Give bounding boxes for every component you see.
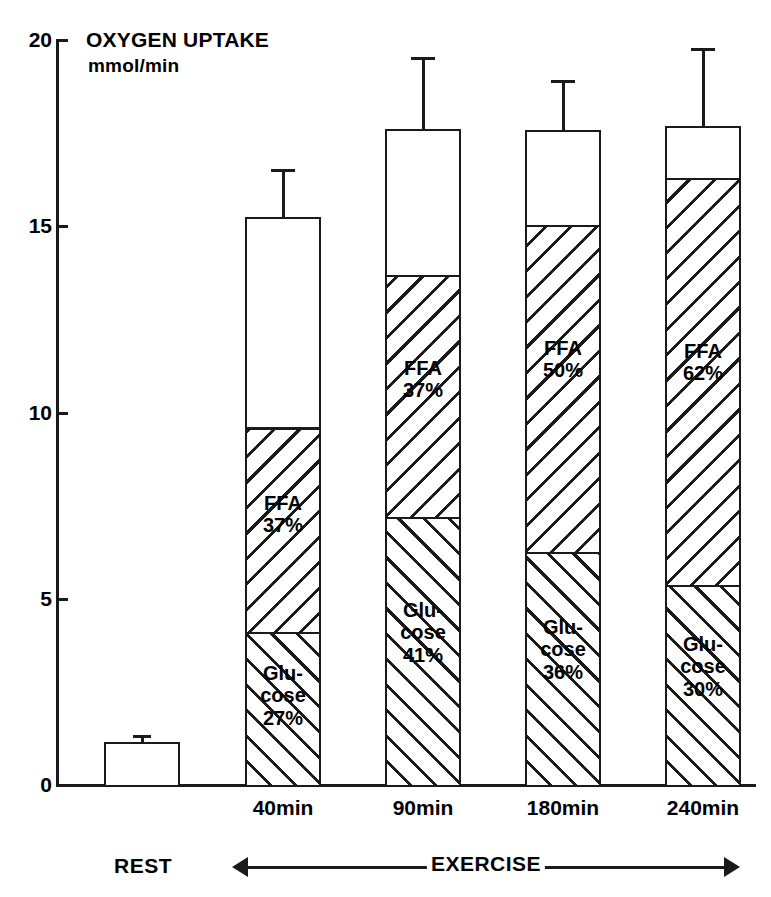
bar-40min-segment-ffa: FFA 37% [245,428,321,639]
bar-rest-error-cap [133,735,151,738]
bar-240min-segment-ffa: FFA 62% [665,178,741,588]
phase-label-exercise: EXERCISE [427,852,545,876]
arrow-left-icon [232,857,248,877]
x-label-40min: 40min [218,796,348,820]
bar-240min-ffa-name: FFA [667,340,739,362]
bar-90min-ffa-percent: 37% [387,379,459,401]
y-tick-5 [56,598,68,601]
y-tick-label-0: 0 [6,773,52,797]
bar-40min-glucose-name-line1: Glu- [247,662,319,684]
bar-40min-segment-other [245,217,321,429]
chart-canvas: OXYGEN UPTAKE mmol/min 20 15 10 5 0 FFA … [0,0,771,897]
x-label-90min: 90min [358,796,488,820]
bar-90min-glucose-name-line1: Glu- [387,599,459,621]
bar-90min-error-cap [411,57,435,60]
bar-180min-ffa-percent: 50% [527,359,599,381]
phase-label-rest: REST [78,854,208,878]
y-tick-label-5: 5 [6,587,52,611]
x-label-240min: 240min [638,796,768,820]
y-tick-0 [56,784,68,787]
bar-240min-glucose-percent: 30% [667,678,739,700]
bar-90min-ffa-name: FFA [387,357,459,379]
x-label-180min: 180min [498,796,628,820]
bar-180min-ffa-name: FFA [527,337,599,359]
bar-90min-glucose-percent: 41% [387,644,459,666]
bar-90min-segment-glucose: Glu- cose 41% [385,517,461,787]
bar-240min-glucose-name-line2: cose [667,655,739,677]
bar-180min-glucose-name-line1: Glu- [527,616,599,638]
arrow-right-icon [724,857,740,877]
bar-240min-segment-other [665,126,741,181]
chart-title: OXYGEN UPTAKE [86,28,269,52]
bar-240min-glucose-name-line1: Glu- [667,633,739,655]
y-tick-label-10: 10 [6,401,52,425]
chart-subtitle-units: mmol/min [88,55,179,77]
y-tick-label-20: 20 [6,28,52,52]
bar-240min-error-cap [691,48,715,51]
bar-180min-error-cap [551,80,575,83]
bar-240min-ffa-percent: 62% [667,362,739,384]
bar-180min-segment-glucose: Glu- cose 36% [525,552,601,787]
bar-240min-error-bar [702,48,705,128]
y-tick-15 [56,225,68,228]
bar-90min-segment-other [385,129,461,278]
bar-240min-segment-glucose: Glu- cose 30% [665,585,741,787]
bar-40min-glucose-name-line2: cose [247,684,319,706]
bar-40min-error-bar [282,169,285,219]
y-tick-label-15: 15 [6,214,52,238]
bar-180min-glucose-percent: 36% [527,661,599,683]
phase-indicator-exercise: EXERCISE [232,854,740,884]
bar-40min-segment-glucose: Glu- cose 27% [245,632,321,787]
bar-40min-ffa-name: FFA [247,492,319,514]
y-tick-10 [56,412,68,415]
bar-90min-error-bar [422,57,425,131]
bar-40min-error-cap [271,169,295,172]
bar-rest-segment-total [104,742,180,787]
bar-180min-glucose-name-line2: cose [527,638,599,660]
bar-40min-glucose-percent: 27% [247,707,319,729]
bar-40min-ffa-percent: 37% [247,514,319,536]
y-tick-20 [56,39,68,42]
bar-180min-segment-other [525,130,601,228]
bar-90min-glucose-name-line2: cose [387,621,459,643]
bar-180min-segment-ffa: FFA 50% [525,225,601,555]
bar-90min-segment-ffa: FFA 37% [385,275,461,520]
bar-180min-error-bar [562,80,565,132]
